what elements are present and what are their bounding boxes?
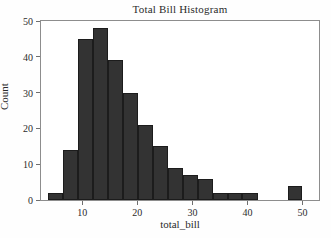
y-axis-tick-mark [36,128,40,129]
histogram-bar [228,193,243,200]
x-axis-tick-label: 20 [132,207,142,218]
y-axis-tick-label: 50 [23,16,33,27]
y-axis-label: Count [0,83,10,110]
chart-title: Total Bill Histogram [40,3,320,15]
y-axis-tick-label: 10 [23,159,33,170]
y-axis-tick-label: 20 [23,123,33,134]
histogram-bar [242,193,257,200]
histogram-bar [48,193,63,200]
y-axis-tick-mark [36,21,40,22]
histogram-bar [123,93,138,200]
x-axis-tick-mark [137,201,138,205]
histogram-bar [198,179,213,200]
y-axis-tick-mark [36,92,40,93]
histogram-bar [183,175,198,200]
histogram-figure: Total Bill Histogram 01020304050 Count 1… [0,0,331,238]
y-axis-tick-label: 40 [23,51,33,62]
histogram-bar [153,146,168,200]
y-axis-tick-label: 30 [23,87,33,98]
y-axis-tick-mark [36,56,40,57]
x-axis-tick-label: 50 [297,207,307,218]
histogram-bar [78,39,93,200]
histogram-bar [168,168,183,200]
y-axis-tick-mark [36,164,40,165]
x-axis-tick-label: 10 [77,207,87,218]
histogram-bar [108,60,123,200]
y-axis-tick-label: 0 [28,195,33,206]
plot-area [41,21,319,200]
histogram-bar [63,150,78,200]
histogram-bar [93,28,108,200]
x-axis-tick-mark [192,201,193,205]
histogram-bar [138,125,153,200]
histogram-bar [288,186,303,200]
histogram-bar [213,193,228,200]
x-axis-tick-label: 30 [187,207,197,218]
y-axis-tick-mark [36,200,40,201]
x-axis-tick-mark [302,201,303,205]
x-axis-tick-label: 40 [242,207,252,218]
x-axis-tick-mark [247,201,248,205]
x-axis-tick-mark [82,201,83,205]
x-axis-label: total_bill [40,218,320,230]
